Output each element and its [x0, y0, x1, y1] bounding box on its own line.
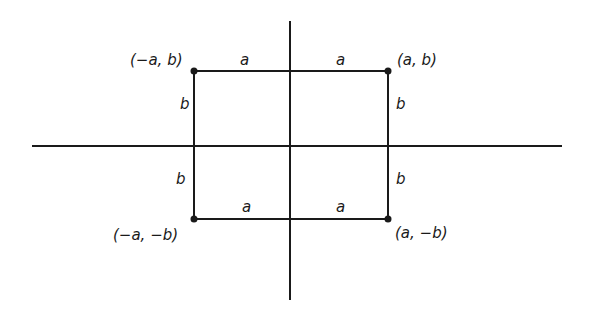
label-bottom-left-a: a [242, 200, 251, 215]
label-top-right-a: a [336, 53, 345, 68]
point-top-left [191, 68, 198, 75]
label-bottom-right-point: (a, −b) [395, 226, 448, 241]
point-top-right [385, 68, 392, 75]
label-bottom-left-point: (−a, −b) [113, 228, 178, 243]
label-top-right-point: (a, b) [397, 53, 437, 68]
point-bottom-left [191, 216, 198, 223]
label-left-upper-b: b [180, 97, 190, 112]
label-left-lower-b: b [176, 172, 186, 187]
diagram-graphics [0, 0, 590, 311]
coordinate-diagram: (−a, b) (a, b) (−a, −b) (a, −b) a a a a … [0, 0, 590, 311]
point-bottom-right [385, 216, 392, 223]
label-top-left-a: a [240, 53, 249, 68]
label-bottom-right-a: a [336, 200, 345, 215]
label-top-left-point: (−a, b) [130, 53, 183, 68]
label-right-upper-b: b [396, 97, 406, 112]
label-right-lower-b: b [396, 172, 406, 187]
